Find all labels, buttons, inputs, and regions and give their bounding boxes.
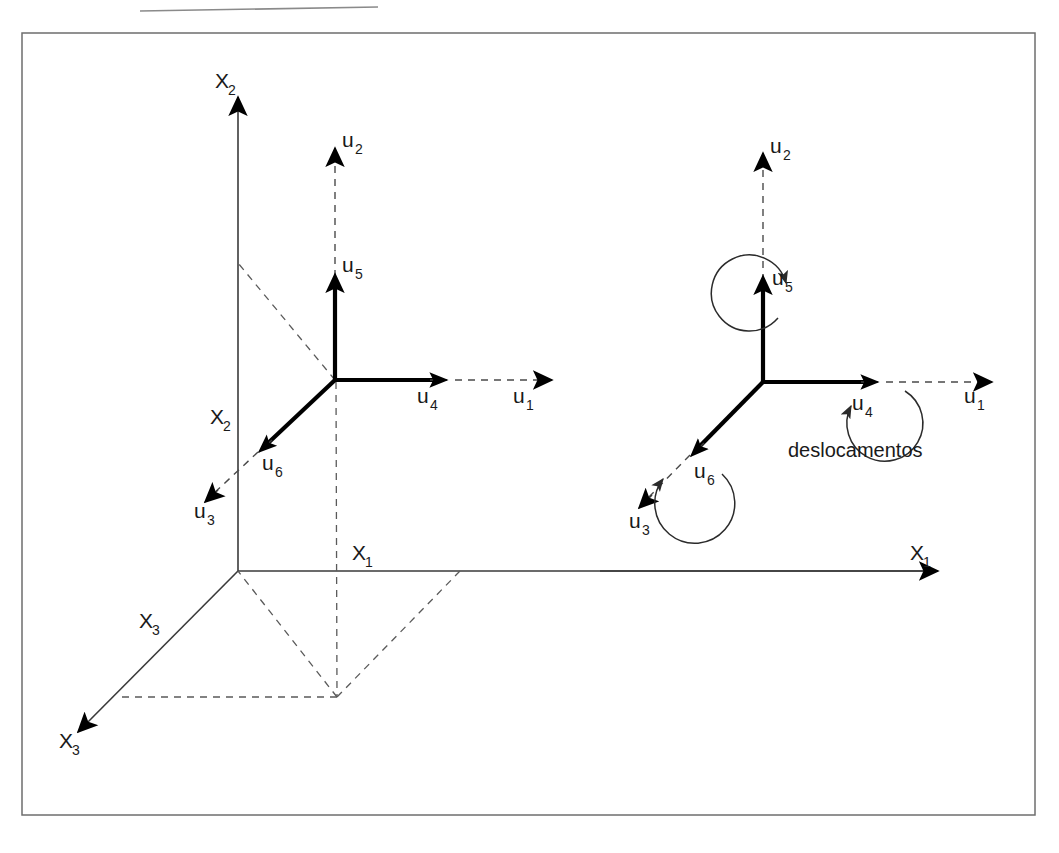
x1-axis-label: X (352, 541, 366, 564)
x1-axis-label-subscript: 1 (365, 554, 373, 570)
right-u3-vector-shaft (646, 455, 690, 500)
projection-foot-to-origin (238, 571, 337, 697)
u3-label: u (194, 499, 206, 522)
x2-second-label: X (210, 405, 224, 428)
u6-rotation-arc (655, 474, 735, 543)
u1-label-subscript: 1 (526, 397, 534, 413)
x3-axis-label: X (139, 609, 153, 632)
right-u5-label-subscript: 5 (785, 279, 793, 295)
figure-frame (22, 33, 1035, 815)
u6-vector-shaft (266, 380, 335, 445)
right-u4-label: u (852, 391, 864, 414)
x3-axis-line (78, 571, 238, 732)
right-u1-label-subscript: 1 (977, 397, 985, 413)
u3-vector-shaft (212, 452, 258, 495)
right-u2-label-subscript: 2 (783, 147, 791, 163)
projection-foot-to-x1 (337, 571, 460, 697)
u2-label: u (342, 128, 354, 151)
left-vector-labels: u 2 u 5 u 1 u 4 u 3 u 6 (194, 128, 534, 528)
u2-label-subscript: 2 (355, 141, 363, 157)
x2-axis-label: X (215, 69, 229, 92)
right-diagram: u 2 u 5 u 1 u 4 u 3 u 6 X 1 deslocamento… (600, 134, 992, 571)
x2-axis-label-subscript: 2 (228, 82, 236, 98)
right-u2-label: u (770, 134, 782, 157)
u3-vector-head (205, 490, 218, 502)
u1-label: u (513, 384, 525, 407)
right-x1-axis-label-subscript: 1 (923, 554, 931, 570)
deslocamentos-caption: deslocamentos (788, 439, 923, 461)
right-vector-labels: u 2 u 5 u 1 u 4 u 3 u 6 X 1 (629, 134, 985, 570)
u6-label-subscript: 6 (275, 464, 283, 480)
right-x1-axis-label: X (910, 541, 924, 564)
u5-label: u (342, 253, 354, 276)
right-u3-label: u (629, 509, 641, 532)
right-u6-label: u (694, 459, 706, 482)
u4-label-subscript: 4 (430, 397, 438, 413)
right-u6-vector-head (691, 443, 704, 456)
right-u6-label-subscript: 6 (707, 472, 715, 488)
u3-label-subscript: 3 (207, 512, 215, 528)
right-u1-label: u (964, 384, 976, 407)
x3-axis-label-subscript: 3 (152, 622, 160, 638)
left-diagram: X 2 X 2 X 1 X 3 X 3 u 2 u 5 u 1 u 4 (59, 69, 938, 758)
projection-node-to-x2 (238, 263, 335, 380)
x3-end-label-subscript: 3 (72, 742, 80, 758)
deslocamentos-diagram: X 2 X 2 X 1 X 3 X 3 u 2 u 5 u 1 u 4 (0, 0, 1059, 853)
right-u4-label-subscript: 4 (865, 404, 873, 420)
right-u5-label: u (772, 266, 784, 289)
left-axis-labels: X 2 X 2 X 1 X 3 X 3 (59, 69, 373, 758)
u4-label: u (417, 384, 429, 407)
x2-second-label-subscript: 2 (223, 418, 231, 434)
right-u6-vector-shaft (698, 382, 763, 448)
figure-root: X 2 X 2 X 1 X 3 X 3 u 2 u 5 u 1 u 4 (0, 0, 1059, 853)
u6-label: u (262, 451, 274, 474)
projection-node-drop (336, 382, 337, 697)
top-rule (140, 7, 378, 11)
u5-label-subscript: 5 (355, 266, 363, 282)
right-u3-vector-head (639, 495, 652, 508)
x3-end-label: X (59, 729, 73, 752)
right-u3-label-subscript: 3 (642, 522, 650, 538)
